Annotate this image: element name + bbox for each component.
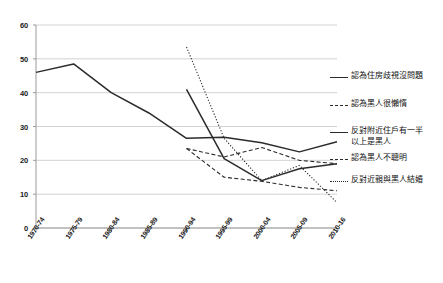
- legend-item-3[interactable]: 反對附近住戶有一半 以上是黑人: [330, 125, 423, 147]
- y-tick-label: 50: [4, 55, 28, 64]
- y-tick-label: 60: [4, 21, 28, 30]
- y-tick-label: 20: [4, 156, 28, 165]
- legend-label: 反對附近住戶有一半 以上是黑人: [351, 125, 423, 147]
- legend-label: 認為住房歧視沒問題: [351, 70, 423, 81]
- series-line-2: [187, 147, 338, 163]
- series-line-1: [36, 64, 337, 152]
- y-tick-label: 30: [4, 123, 28, 132]
- legend-item-5[interactable]: 反對近親與黑人結婚: [330, 174, 423, 187]
- chart-container: 6050403020100 1970-741975-791980-841985-…: [0, 0, 443, 283]
- y-tick-label: 40: [4, 89, 28, 98]
- y-tick-label: 10: [4, 190, 28, 199]
- legend-item-1[interactable]: 認為住房歧視沒問題: [330, 70, 423, 83]
- series-line-5: [187, 47, 338, 203]
- series-line-4: [187, 148, 338, 190]
- legend-item-4[interactable]: 認為黑人不聰明: [330, 152, 407, 165]
- legend-key-solid-icon: [330, 73, 348, 83]
- y-tick-label: 0: [4, 224, 28, 233]
- legend-item-2[interactable]: 認為黑人很懶惰: [330, 98, 407, 111]
- legend-key-solid-icon: [330, 128, 348, 138]
- legend-key-dashed-icon: [330, 101, 348, 111]
- legend-key-dashed-icon: [330, 155, 348, 165]
- legend-label: 認為黑人很懶惰: [351, 98, 407, 109]
- legend-label: 反對近親與黑人結婚: [351, 174, 423, 185]
- legend-key-dotted-icon: [330, 177, 348, 187]
- legend-label: 認為黑人不聰明: [351, 152, 407, 163]
